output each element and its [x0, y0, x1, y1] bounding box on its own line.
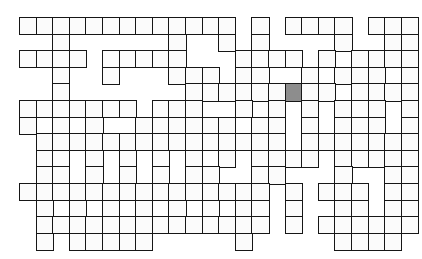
grid-cell[interactable] — [168, 67, 186, 85]
grid-cell[interactable] — [185, 100, 203, 118]
grid-cell[interactable] — [384, 133, 402, 151]
grid-cell[interactable] — [334, 183, 352, 201]
grid-cell[interactable] — [19, 50, 37, 68]
grid-cell[interactable] — [318, 183, 336, 201]
grid-cell[interactable] — [251, 83, 269, 101]
grid-cell[interactable] — [218, 17, 236, 35]
grid-cell[interactable] — [334, 150, 352, 168]
grid-cell[interactable] — [368, 17, 386, 35]
grid-cell[interactable] — [218, 216, 236, 234]
grid-cell[interactable] — [368, 83, 386, 101]
grid-cell[interactable] — [268, 50, 286, 68]
grid-cell[interactable] — [102, 100, 120, 118]
grid-cell[interactable] — [102, 216, 120, 234]
grid-cell[interactable] — [285, 150, 303, 168]
grid-cell[interactable] — [301, 117, 319, 135]
grid-cell[interactable] — [334, 34, 352, 52]
grid-cell[interactable] — [235, 67, 253, 85]
grid-cell[interactable] — [168, 200, 186, 218]
grid-cell[interactable] — [251, 183, 269, 201]
grid-cell[interactable] — [69, 50, 87, 68]
grid-cell[interactable] — [334, 100, 352, 118]
grid-cell[interactable] — [301, 17, 319, 35]
grid-cell[interactable] — [351, 233, 369, 251]
grid-cell[interactable] — [19, 17, 37, 35]
grid-cell[interactable] — [135, 117, 153, 135]
grid-cell[interactable] — [85, 100, 103, 118]
grid-cell[interactable] — [401, 17, 419, 35]
grid-cell[interactable] — [251, 166, 269, 184]
grid-cell[interactable] — [168, 34, 186, 52]
grid-cell[interactable] — [251, 50, 269, 68]
grid-cell[interactable] — [69, 100, 87, 118]
grid-cell[interactable] — [351, 117, 369, 135]
grid-cell[interactable] — [36, 200, 54, 218]
grid-cell[interactable] — [168, 216, 186, 234]
grid-cell[interactable] — [85, 233, 103, 251]
grid-cell[interactable] — [285, 200, 303, 218]
grid-cell[interactable] — [85, 166, 103, 184]
grid-cell[interactable] — [69, 17, 87, 35]
grid-cell[interactable] — [235, 133, 253, 151]
grid-cell[interactable] — [368, 100, 386, 118]
grid-cell[interactable] — [218, 183, 236, 201]
grid-cell[interactable] — [318, 50, 336, 68]
grid-cell[interactable] — [251, 17, 269, 35]
grid-cell[interactable] — [52, 50, 70, 68]
grid-cell[interactable] — [135, 200, 153, 218]
grid-cell[interactable] — [235, 100, 253, 118]
grid-cell[interactable] — [401, 166, 419, 184]
grid-cell[interactable] — [36, 100, 54, 118]
grid-cell[interactable] — [301, 83, 319, 101]
grid-cell[interactable] — [384, 216, 402, 234]
grid-cell[interactable] — [334, 200, 352, 218]
grid-cell[interactable] — [69, 233, 87, 251]
grid-cell[interactable] — [152, 216, 170, 234]
grid-cell[interactable] — [69, 216, 87, 234]
grid-cell[interactable] — [85, 117, 103, 135]
grid-cell[interactable] — [152, 183, 170, 201]
grid-cell[interactable] — [384, 233, 402, 251]
grid-cell[interactable] — [401, 117, 419, 135]
grid-cell[interactable] — [368, 133, 386, 151]
grid-cell[interactable] — [351, 216, 369, 234]
grid-cell[interactable] — [251, 34, 269, 52]
grid-cell[interactable] — [36, 166, 54, 184]
grid-cell[interactable] — [218, 83, 236, 101]
grid-cell[interactable] — [152, 117, 170, 135]
shaded-cell[interactable] — [285, 83, 303, 101]
grid-cell[interactable] — [334, 67, 352, 85]
grid-cell[interactable] — [251, 150, 269, 168]
grid-cell[interactable] — [152, 50, 170, 68]
grid-cell[interactable] — [268, 83, 286, 101]
grid-cell[interactable] — [168, 117, 186, 135]
grid-cell[interactable] — [218, 150, 236, 168]
grid-cell[interactable] — [368, 117, 386, 135]
grid-cell[interactable] — [235, 83, 253, 101]
grid-cell[interactable] — [202, 166, 220, 184]
grid-cell[interactable] — [152, 150, 170, 168]
grid-cell[interactable] — [318, 83, 336, 101]
grid-cell[interactable] — [334, 17, 352, 35]
grid-cell[interactable] — [52, 183, 70, 201]
grid-cell[interactable] — [301, 67, 319, 85]
grid-cell[interactable] — [218, 133, 236, 151]
grid-cell[interactable] — [301, 100, 319, 118]
grid-cell[interactable] — [401, 200, 419, 218]
grid-cell[interactable] — [36, 133, 54, 151]
grid-cell[interactable] — [268, 100, 286, 118]
grid-cell[interactable] — [69, 133, 87, 151]
grid-cell[interactable] — [135, 216, 153, 234]
grid-cell[interactable] — [102, 67, 120, 85]
grid-cell[interactable] — [119, 100, 137, 118]
grid-cell[interactable] — [69, 183, 87, 201]
grid-cell[interactable] — [119, 233, 137, 251]
grid-cell[interactable] — [351, 83, 369, 101]
grid-cell[interactable] — [135, 133, 153, 151]
grid-cell[interactable] — [185, 166, 203, 184]
grid-cell[interactable] — [185, 216, 203, 234]
grid-cell[interactable] — [168, 100, 186, 118]
grid-cell[interactable] — [152, 133, 170, 151]
grid-cell[interactable] — [52, 34, 70, 52]
grid-cell[interactable] — [218, 34, 236, 52]
